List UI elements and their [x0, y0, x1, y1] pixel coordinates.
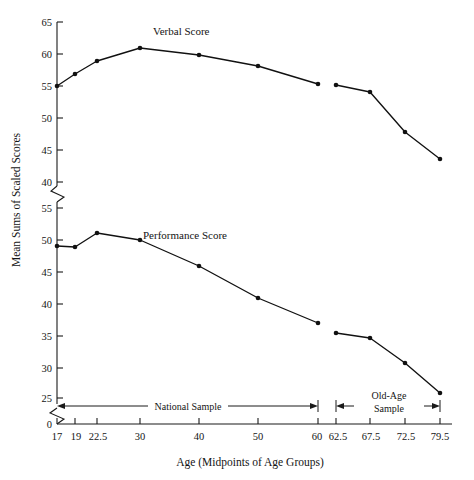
national-sample-label: National Sample	[155, 401, 222, 412]
verbal-point-79-5	[438, 157, 443, 162]
chart-canvas: 65 60 55 50 45 40 55 50 45 40 35 30	[0, 0, 474, 480]
performance-point-62-5	[334, 331, 339, 336]
x-tick-label-60: 60	[312, 431, 323, 442]
verbal-point-22-5	[95, 59, 100, 64]
oldage-bracket-left-arrowhead	[336, 403, 344, 409]
verbal-point-62-5	[334, 83, 339, 88]
verbal-point-40	[197, 53, 202, 58]
performance-point-67-5	[368, 336, 373, 341]
national-bracket-right-arrowhead	[310, 403, 318, 409]
y-tick-label-30b: 30	[42, 363, 53, 374]
verbal-point-60	[316, 82, 321, 87]
performance-score-label: Performance Score	[143, 229, 227, 241]
verbal-score-label: Verbal Score	[153, 25, 210, 37]
y-tick-label-25b: 25	[42, 393, 53, 404]
y-tick-label-50: 50	[42, 113, 53, 124]
national-sample-bracket: National Sample	[57, 400, 318, 412]
y-axis-title: Mean Sums of Scaled Scores	[10, 132, 22, 267]
verbal-point-72-5	[403, 130, 408, 135]
old-age-sample-label-line1: Old-Age	[372, 390, 408, 401]
y-tick-label-35b: 35	[42, 331, 53, 342]
y-tick-label-0: 0	[47, 419, 52, 430]
performance-point-79-5	[438, 391, 443, 396]
x-tick-label-30: 30	[135, 431, 146, 442]
old-age-sample-bracket: Old-Age Sample	[336, 390, 440, 414]
performance-point-60	[316, 321, 321, 326]
x-tick-label-22-5: 22.5	[89, 431, 107, 442]
verbal-line-segment-oldage	[336, 85, 440, 159]
x-axis: 17 19 22.5 30 40 50 60 62.5 67.5 72.5 79…	[52, 418, 452, 442]
y-tick-label-55b: 55	[42, 203, 53, 214]
y-tick-label-60: 60	[42, 49, 53, 60]
performance-line-segment-national	[57, 233, 318, 323]
national-bracket-left-arrowhead	[57, 403, 65, 409]
verbal-point-50	[256, 64, 261, 69]
series-performance-score: Performance Score	[55, 229, 443, 395]
y-axis-lower: 55 50 45 40 35 30 25	[42, 202, 64, 404]
y-tick-label-40b: 40	[42, 299, 53, 310]
y-axis-break-lower: 0	[47, 408, 64, 430]
performance-line-segment-oldage	[336, 333, 440, 393]
x-tick-label-72-5: 72.5	[397, 431, 415, 442]
y-tick-label-45b: 45	[42, 267, 53, 278]
series-verbal-score: Verbal Score	[55, 25, 443, 161]
x-tick-label-40: 40	[194, 431, 205, 442]
y-axis-upper: 65 60 55 50 45 40	[42, 17, 64, 188]
axis-break-zigzag-upper	[51, 186, 64, 202]
x-tick-label-62-5: 62.5	[329, 431, 347, 442]
old-age-sample-label-line2: Sample	[374, 403, 405, 414]
x-tick-label-19: 19	[71, 431, 82, 442]
performance-point-17	[55, 244, 60, 249]
performance-point-22-5	[95, 231, 100, 236]
x-tick-label-50: 50	[253, 431, 264, 442]
performance-point-40	[197, 264, 202, 269]
verbal-point-30	[138, 46, 143, 51]
y-axis-break-upper	[51, 186, 64, 202]
x-tick-label-79-5: 79.5	[431, 431, 449, 442]
verbal-point-19	[73, 72, 78, 77]
verbal-line-segment-national	[57, 48, 318, 86]
y-tick-label-65: 65	[42, 17, 53, 28]
chart-figure: 65 60 55 50 45 40 55 50 45 40 35 30	[0, 0, 474, 480]
y-tick-label-45: 45	[42, 145, 53, 156]
x-tick-label-17: 17	[52, 431, 63, 442]
verbal-point-67-5	[368, 90, 373, 95]
performance-point-30	[138, 238, 143, 243]
y-tick-label-50b: 50	[42, 235, 53, 246]
y-tick-label-40: 40	[42, 177, 53, 188]
performance-point-50	[256, 296, 261, 301]
performance-point-72-5	[403, 361, 408, 366]
y-tick-label-55: 55	[42, 81, 53, 92]
oldage-bracket-right-arrowhead	[432, 403, 440, 409]
verbal-point-17	[55, 84, 60, 89]
performance-point-19	[73, 245, 78, 250]
x-axis-title: Age (Midpoints of Age Groups)	[176, 456, 324, 469]
x-tick-label-67-5: 67.5	[362, 431, 380, 442]
